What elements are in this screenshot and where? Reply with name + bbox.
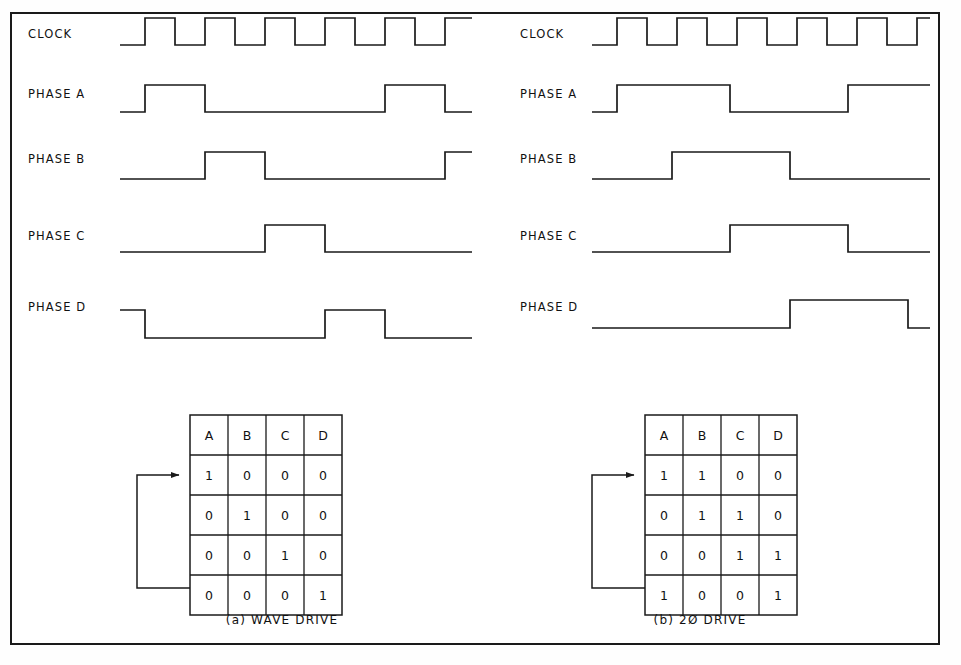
table-cell: 0: [660, 548, 668, 563]
table-header-b: B: [243, 428, 252, 443]
table-cell: 0: [319, 508, 327, 523]
table-cell: 0: [243, 468, 251, 483]
truth-table-wave-drive: ABCD1000010000100001: [190, 415, 342, 615]
waveform-label-two-phase-drive-phase-a: PHASE A: [520, 87, 577, 101]
table-cell: 0: [774, 508, 782, 523]
table-header-d: D: [773, 428, 783, 443]
table-cell: 0: [281, 468, 289, 483]
table-cell: 1: [774, 548, 782, 563]
table-cell: 0: [319, 548, 327, 563]
waveform-label-wave-drive-clock: CLOCK: [28, 27, 72, 41]
panel-wave-drive: CLOCKPHASE APHASE BPHASE CPHASE DABCD100…: [28, 18, 472, 627]
feedback-loop-arrow-wave-drive: [137, 475, 190, 588]
table-cell: 0: [243, 548, 251, 563]
waveform-label-two-phase-drive-clock: CLOCK: [520, 27, 564, 41]
caption-wave-drive: (a) WAVE DRIVE: [226, 613, 339, 627]
waveform-label-two-phase-drive-phase-c: PHASE C: [520, 229, 577, 243]
panel-two-phase-drive: CLOCKPHASE APHASE BPHASE CPHASE DABCD110…: [520, 18, 930, 627]
page-footer-text: [18, 652, 578, 665]
waveform-trace-wave-drive-phase-d: [120, 310, 472, 338]
table-header-a: A: [660, 428, 669, 443]
table-cell: 0: [736, 468, 744, 483]
waveform-trace-wave-drive-clock: [120, 18, 472, 45]
waveform-label-wave-drive-phase-a: PHASE A: [28, 87, 85, 101]
table-cell: 1: [736, 548, 744, 563]
caption-two-phase-drive: (b) 2Ø DRIVE: [654, 613, 747, 627]
table-cell: 1: [774, 588, 782, 603]
waveform-label-two-phase-drive-phase-d: PHASE D: [520, 300, 578, 314]
table-cell: 1: [281, 548, 289, 563]
table-cell: 1: [698, 508, 706, 523]
waveform-trace-two-phase-drive-phase-d: [592, 300, 930, 328]
table-cell: 0: [243, 588, 251, 603]
waveform-label-wave-drive-phase-d: PHASE D: [28, 300, 86, 314]
waveform-label-two-phase-drive-phase-b: PHASE B: [520, 152, 577, 166]
table-cell: 1: [319, 588, 327, 603]
table-cell: 1: [660, 468, 668, 483]
waveform-trace-two-phase-drive-phase-c: [592, 225, 930, 252]
timing-diagram: CLOCKPHASE APHASE BPHASE CPHASE DABCD100…: [0, 0, 961, 665]
table-header-a: A: [205, 428, 214, 443]
waveform-trace-wave-drive-phase-a: [120, 85, 472, 112]
waveform-label-wave-drive-phase-c: PHASE C: [28, 229, 85, 243]
table-cell: 0: [205, 548, 213, 563]
table-cell: 0: [319, 468, 327, 483]
table-header-b: B: [698, 428, 707, 443]
table-header-c: C: [281, 428, 290, 443]
waveform-trace-two-phase-drive-phase-a: [592, 85, 930, 112]
table-cell: 0: [281, 508, 289, 523]
table-cell: 1: [243, 508, 251, 523]
table-cell: 0: [660, 508, 668, 523]
waveform-label-wave-drive-phase-b: PHASE B: [28, 152, 85, 166]
table-cell: 1: [736, 508, 744, 523]
table-cell: 0: [205, 508, 213, 523]
table-cell: 0: [698, 588, 706, 603]
table-cell: 0: [205, 588, 213, 603]
waveform-trace-wave-drive-phase-c: [120, 225, 472, 252]
table-header-c: C: [736, 428, 745, 443]
feedback-loop-arrow-two-phase-drive: [592, 475, 645, 588]
waveform-trace-two-phase-drive-clock: [592, 18, 930, 45]
truth-table-two-phase-drive: ABCD1100011000111001: [645, 415, 797, 615]
table-cell: 0: [698, 548, 706, 563]
table-cell: 1: [660, 588, 668, 603]
table-cell: 1: [698, 468, 706, 483]
table-cell: 0: [736, 588, 744, 603]
table-cell: 0: [774, 468, 782, 483]
table-cell: 0: [281, 588, 289, 603]
waveform-trace-wave-drive-phase-b: [120, 152, 472, 179]
table-cell: 1: [205, 468, 213, 483]
table-header-d: D: [318, 428, 328, 443]
waveform-trace-two-phase-drive-phase-b: [592, 152, 930, 179]
